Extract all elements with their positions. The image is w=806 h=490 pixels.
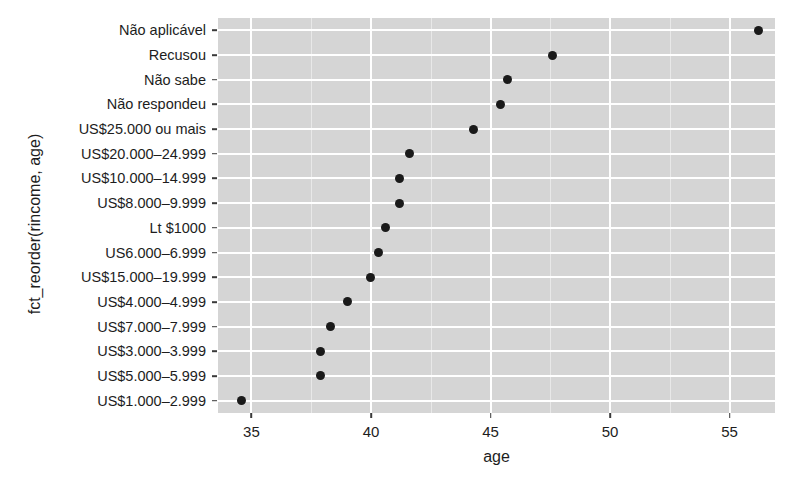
y-axis-tick-mark [212,128,217,130]
gridline-vertical-major [729,18,731,413]
gridline-vertical-minor [550,18,551,413]
y-axis-tick-mark [212,178,217,180]
gridline-horizontal [218,153,775,155]
y-axis-tick-mark [212,326,217,328]
y-axis-tick-mark [212,375,217,377]
y-axis-tick-mark [212,104,217,106]
data-point [343,297,352,306]
gridline-horizontal [218,202,775,204]
x-axis-tick-label: 45 [482,424,499,439]
gridline-vertical-minor [670,18,671,413]
y-axis-tick-label: US$8.000–9.999 [97,196,206,211]
y-axis-tick-label: US$10.000–14.999 [81,171,206,186]
data-point [469,125,478,134]
y-axis-tick-label: US$3.000–3.999 [97,344,206,359]
gridline-horizontal [218,301,775,303]
x-axis-tick-mark [370,413,372,418]
x-axis-tick-mark [251,413,253,418]
gridline-horizontal [218,227,775,229]
gridline-horizontal [218,177,775,179]
chart-figure: Não aplicávelRecusouNão sabeNão responde… [0,0,806,490]
y-axis-title: fct_reorder(rincome, age) [26,24,44,424]
y-axis-tick-label: Não sabe [144,72,206,87]
gridline-vertical-major [250,18,252,413]
gridline-vertical-major [490,18,492,413]
y-axis-tick-mark [212,400,217,402]
x-axis-tick-label: 35 [243,424,260,439]
gridline-horizontal [218,252,775,254]
x-axis-tick-label: 55 [721,424,738,439]
gridline-horizontal [218,54,775,56]
y-axis-tick-mark [212,54,217,56]
data-point [381,223,390,232]
data-point [405,149,414,158]
y-axis-tick-label: Recusou [149,48,206,63]
y-axis-tick-label: Lt $1000 [150,221,206,236]
gridline-horizontal [218,326,775,328]
x-axis-tick-mark [490,413,492,418]
data-point [237,396,246,405]
y-axis-tick-mark [212,79,217,81]
y-axis-tick-label: US$1.000–2.999 [97,393,206,408]
y-axis-tick-label: US6.000–6.999 [105,245,206,260]
y-axis-tick-mark [212,350,217,352]
gridline-horizontal [218,375,775,377]
y-axis-tick-label: Não aplicável [119,23,206,38]
y-axis-tick-mark [212,153,217,155]
gridline-horizontal [218,400,775,402]
y-axis-tick-label: US$15.000–19.999 [81,270,206,285]
x-axis-tick-mark [729,413,731,418]
data-point [326,322,335,331]
y-axis-tick-label: US$25.000 ou mais [79,122,206,137]
x-axis-tick-label: 40 [363,424,380,439]
data-point [395,199,404,208]
y-axis-tick-mark [212,30,217,32]
plot-panel [218,18,775,413]
data-point [503,75,512,84]
x-axis-tick-label: 50 [602,424,619,439]
data-point [395,174,404,183]
data-point [316,347,325,356]
gridline-horizontal [218,276,775,278]
gridline-vertical-minor [431,18,432,413]
data-point [316,371,325,380]
data-point [374,248,383,257]
data-point [496,100,505,109]
gridline-horizontal [218,350,775,352]
data-point [754,26,763,35]
gridline-horizontal [218,29,775,31]
y-axis-tick-label: US$20.000–24.999 [81,147,206,162]
data-point [366,273,375,282]
y-axis-tick-label: Não respondeu [107,97,206,112]
y-axis-tick-label: US$5.000–5.999 [97,369,206,384]
y-axis-tick-label: US$4.000–4.999 [97,295,206,310]
gridline-vertical-major [370,18,372,413]
gridline-vertical-major [609,18,611,413]
gridline-horizontal [218,128,775,130]
y-axis-tick-marks [211,0,218,490]
gridline-vertical-minor [311,18,312,413]
y-axis-tick-label: US$7.000–7.999 [97,319,206,334]
y-axis-tick-mark [212,301,217,303]
y-axis-tick-mark [212,276,217,278]
y-axis-tick-mark [212,252,217,254]
y-axis-tick-mark [212,227,217,229]
x-axis-title: age [218,448,775,466]
gridline-horizontal [218,79,775,81]
x-axis-tick-mark [609,413,611,418]
data-point [548,51,557,60]
y-axis-tick-mark [212,202,217,204]
